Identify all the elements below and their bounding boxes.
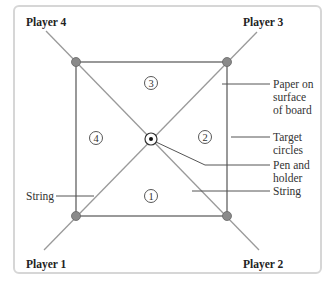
callout-pen-line1: Pen and <box>273 159 310 171</box>
player-2-label: Player 2 <box>243 258 284 271</box>
callout-paper-line3: of board <box>273 104 312 116</box>
region-2-marker: 2 <box>199 131 212 144</box>
callout-string-left: String <box>26 190 54 203</box>
corner-peg-bottom-left <box>72 212 81 221</box>
region-4-label: 4 <box>93 133 99 144</box>
region-3-marker: 3 <box>145 77 158 90</box>
callout-paper-line1: Paper on <box>273 78 314 91</box>
callout-target-line2: circles <box>273 144 304 156</box>
region-4-marker: 4 <box>90 132 103 145</box>
player-1-label: Player 1 <box>26 258 67 271</box>
string-board-diagram: 3 4 2 1 Player 4 Player 3 Player 1 Playe… <box>0 0 332 290</box>
region-3-label: 3 <box>148 78 153 89</box>
callout-target-line1: Target <box>273 131 303 144</box>
corner-peg-top-right <box>223 58 232 67</box>
pen-tip-icon <box>149 137 153 141</box>
callout-string-right: String <box>273 185 301 198</box>
callout-paper-line2: surface <box>273 91 306 103</box>
corner-peg-bottom-right <box>223 212 232 221</box>
region-1-marker: 1 <box>145 190 158 203</box>
region-2-label: 2 <box>202 132 207 143</box>
callout-pen-line2: holder <box>273 172 303 184</box>
player-4-label: Player 4 <box>26 16 67 29</box>
corner-peg-top-left <box>72 58 81 67</box>
region-1-label: 1 <box>148 191 153 202</box>
player-3-label: Player 3 <box>243 16 284 29</box>
